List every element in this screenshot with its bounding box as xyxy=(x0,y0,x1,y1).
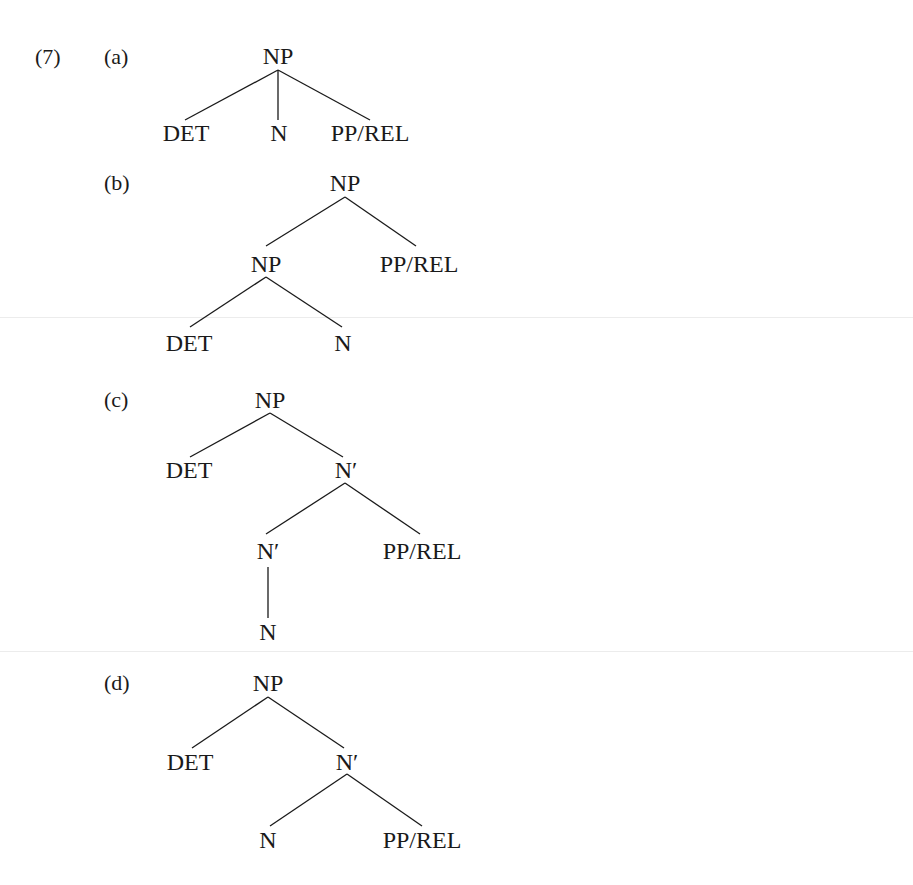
node-n-bar-inner: N′ xyxy=(257,539,280,563)
tree-branch xyxy=(347,774,422,826)
node-det: DET xyxy=(163,121,210,145)
node-pp-rel: PP/REL xyxy=(383,828,462,852)
tree-branch xyxy=(268,697,344,748)
node-det: DET xyxy=(166,458,213,482)
node-np: NP xyxy=(330,171,361,195)
node-pp-rel: PP/REL xyxy=(331,121,410,145)
tree-branch xyxy=(266,483,345,534)
node-pp-rel: PP/REL xyxy=(380,252,459,276)
tree-edges xyxy=(0,0,913,885)
node-n: N xyxy=(270,121,287,145)
node-np: NP xyxy=(255,388,286,412)
node-n: N xyxy=(259,828,276,852)
tree-branch xyxy=(266,197,345,246)
tree-branch xyxy=(190,413,270,457)
tree-branch xyxy=(345,483,420,534)
tree-branch xyxy=(190,277,266,327)
tree-branch xyxy=(266,277,342,327)
node-pp-rel: PP/REL xyxy=(383,539,462,563)
node-np-inner: NP xyxy=(251,252,282,276)
tree-branch xyxy=(270,774,347,826)
node-det: DET xyxy=(166,331,213,355)
node-np: NP xyxy=(263,44,294,68)
tree-label: (d) xyxy=(104,672,130,694)
tree-branch xyxy=(192,697,268,748)
node-n: N xyxy=(259,620,276,644)
node-det: DET xyxy=(167,750,214,774)
node-np: NP xyxy=(253,671,284,695)
node-n-bar: N′ xyxy=(335,458,358,482)
tree-branch xyxy=(345,197,416,246)
node-n: N xyxy=(334,331,351,355)
tree-label: (c) xyxy=(104,389,128,411)
tree-branch xyxy=(270,413,343,457)
tree-branch xyxy=(185,70,278,120)
node-n-bar: N′ xyxy=(336,750,359,774)
tree-label: (b) xyxy=(104,172,130,194)
tree-label: (a) xyxy=(104,46,128,68)
tree-branch xyxy=(278,70,370,120)
